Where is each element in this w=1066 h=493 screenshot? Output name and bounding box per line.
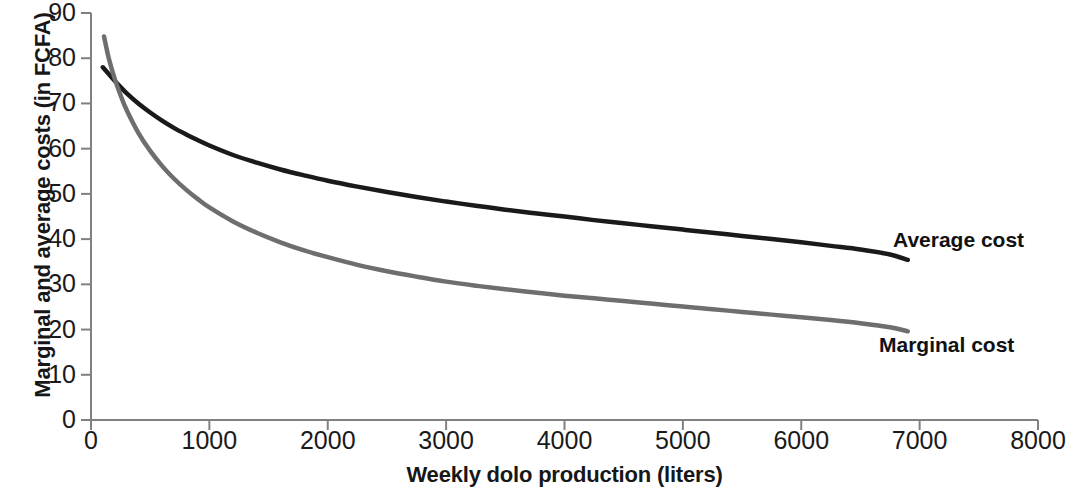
series-line-average-cost <box>103 67 908 260</box>
chart-figure: Marginal and average costs (in FCFA) 010… <box>0 0 1066 493</box>
x-tick-label: 4000 <box>505 428 625 453</box>
x-tick-label: 3000 <box>386 428 506 453</box>
series-label-average-cost: Average cost <box>893 228 1024 252</box>
x-tick-label: 0 <box>31 428 151 453</box>
x-tick-label: 6000 <box>741 428 861 453</box>
x-tick-label: 2000 <box>268 428 388 453</box>
y-axis-ticks <box>81 13 91 420</box>
x-tick-label: 7000 <box>860 428 980 453</box>
x-axis-title: Weekly dolo production (liters) <box>91 462 1038 488</box>
x-tick-label: 8000 <box>978 428 1066 453</box>
x-tick-label: 1000 <box>149 428 269 453</box>
series-line-marginal-cost <box>104 37 908 332</box>
x-tick-label: 5000 <box>623 428 743 453</box>
series-label-marginal-cost: Marginal cost <box>879 333 1014 357</box>
data-series-group <box>103 37 908 332</box>
